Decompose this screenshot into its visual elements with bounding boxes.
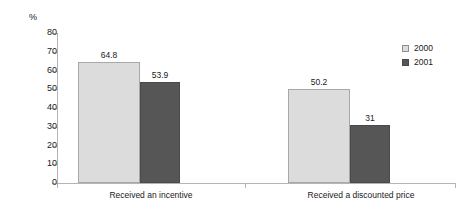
y-axis-line bbox=[57, 33, 58, 183]
bar-chart: % 80706050403020100 64.853.950.231 Recei… bbox=[0, 0, 469, 210]
chart-legend: 2000 2001 bbox=[402, 42, 433, 70]
legend-label-2001: 2001 bbox=[414, 58, 433, 67]
legend-swatch-icon-2000 bbox=[402, 45, 409, 52]
bar-2000-1 bbox=[78, 62, 140, 184]
y-axis-tick: 10 bbox=[0, 164, 57, 165]
y-axis-tick-label: 0 bbox=[11, 177, 57, 187]
y-axis-tick: 70 bbox=[0, 52, 57, 53]
y-axis-unit-label: % bbox=[29, 12, 37, 22]
x-axis-end-tick bbox=[455, 183, 456, 188]
y-axis-tick-label: 10 bbox=[11, 158, 57, 168]
legend-item-2001: 2001 bbox=[402, 56, 433, 68]
y-axis-tick-label: 30 bbox=[11, 121, 57, 131]
legend-swatch-icon-2001 bbox=[402, 59, 409, 66]
y-axis-tick: 80 bbox=[0, 33, 57, 34]
y-axis-tick: 30 bbox=[0, 127, 57, 128]
y-axis-tick-label: 20 bbox=[11, 140, 57, 150]
x-axis-start-tick bbox=[57, 183, 58, 188]
y-axis-tick-label: 70 bbox=[11, 46, 57, 56]
bar-value-label: 53.9 bbox=[140, 70, 180, 80]
x-axis-category-label: Received an incentive bbox=[61, 190, 241, 200]
y-axis-tick: 0 bbox=[0, 183, 57, 184]
y-axis-tick: 40 bbox=[0, 108, 57, 109]
y-axis-tick-label: 50 bbox=[11, 83, 57, 93]
bar-value-label: 64.8 bbox=[78, 50, 140, 60]
y-axis-tick-label: 40 bbox=[11, 102, 57, 112]
bar-2000-2 bbox=[288, 89, 350, 183]
bar-2001-1 bbox=[140, 82, 180, 183]
y-axis-tick-label: 60 bbox=[11, 65, 57, 75]
bar-value-label: 50.2 bbox=[288, 77, 350, 87]
bar-2001-2 bbox=[350, 125, 390, 183]
x-axis-line bbox=[57, 183, 455, 184]
y-axis-tick-label: 80 bbox=[11, 27, 57, 37]
x-axis-category-separator-tick bbox=[245, 183, 246, 188]
y-axis-tick: 20 bbox=[0, 146, 57, 147]
y-axis-tick: 50 bbox=[0, 89, 57, 90]
legend-item-2000: 2000 bbox=[402, 42, 433, 54]
bar-value-label: 31 bbox=[350, 113, 390, 123]
y-axis-tick: 60 bbox=[0, 71, 57, 72]
legend-label-2000: 2000 bbox=[414, 44, 433, 53]
x-axis-category-label: Received a discounted price bbox=[271, 190, 451, 200]
